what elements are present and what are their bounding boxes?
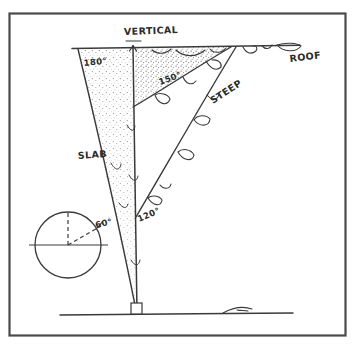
label-slab: SLAB: [77, 148, 107, 161]
diagram-canvas: VERTICAL ROOF SLAB STEEP 180° 150° 120° …: [0, 0, 357, 348]
rock-angle-diagram: VERTICAL ROOF SLAB STEEP 180° 150° 120° …: [0, 0, 357, 348]
label-vertical: VERTICAL: [124, 24, 179, 37]
base-block-marker: [131, 303, 142, 314]
